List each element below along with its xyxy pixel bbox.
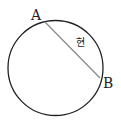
point-a-label: A [30, 7, 42, 23]
chord-label: 현 [76, 37, 85, 48]
circle [8, 21, 103, 116]
point-b-label: B [103, 75, 113, 91]
chord-ab [45, 22, 100, 78]
circle-chord-diagram: A B 현 [0, 0, 121, 121]
